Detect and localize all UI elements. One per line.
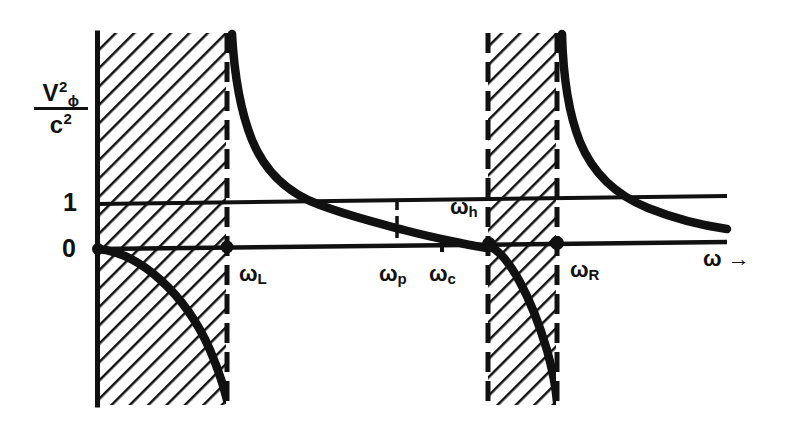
dispersion-diagram: V2ϕ c2 1 0 ωL ωp ωc ωh ωR ω → [0,0,785,436]
omega-p-subscript: p [398,270,407,287]
y-axis-label-numerator: V2ϕ [30,80,92,106]
omega-c-subscript: c [448,270,456,287]
y-axis-label-v-symbol: V [42,79,59,106]
plot-canvas [0,0,785,436]
omega-h-label: ωh [450,196,478,219]
omega-R-dot [550,236,564,250]
omega-R-label: ωR [570,259,599,282]
omega-R-subscript: R [589,266,600,283]
omega-h-symbol: ω [450,194,469,219]
y-axis-label-fraction-rule [34,107,88,110]
omega-p-label: ωp [379,263,407,286]
omega-L-symbol: ω [239,261,258,286]
y-axis-label-c-superscript: 2 [64,110,73,127]
y-axis-label-v-superscript: 2 [59,78,68,95]
omega-p-symbol: ω [379,261,398,286]
y-axis-label-c-symbol: c [50,111,64,138]
y-tick-label-zero: 0 [62,236,76,261]
y-axis-label: V2ϕ c2 [30,80,92,137]
y-tick-label-one: 1 [63,190,77,215]
omega-L-dot [221,241,234,254]
omega-c-label: ωc [429,263,456,286]
omega-L-label: ωL [239,263,267,286]
y-axis-label-denominator: c2 [30,112,92,137]
omega-L-subscript: L [258,270,267,287]
omega-R-symbol: ω [570,257,589,282]
x-axis-label: ω → [703,248,750,270]
omega-c-symbol: ω [429,261,448,286]
omega-h-subscript: h [469,203,478,220]
y-axis-label-v-subscript: ϕ [68,92,80,109]
